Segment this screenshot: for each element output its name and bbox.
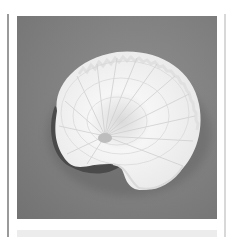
frame-right-border: [224, 14, 226, 237]
shell-illustration: [17, 16, 217, 219]
frame-left-border: [7, 14, 9, 237]
caption-bar-placeholder: [17, 230, 217, 237]
shell-photo: [17, 16, 217, 219]
